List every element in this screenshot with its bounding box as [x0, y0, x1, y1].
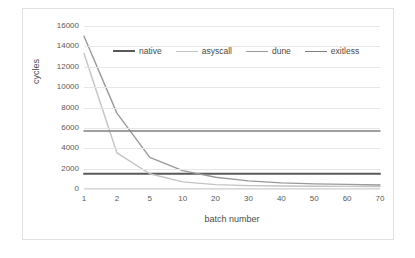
gridline: [84, 128, 380, 129]
gridline: [84, 108, 380, 109]
legend-item-dune[interactable]: dune: [246, 47, 291, 56]
x-axis-tick-label: 5: [148, 195, 152, 203]
x-axis-tick-label: 40: [277, 195, 286, 203]
gridline: [84, 169, 380, 170]
y-axis-tick-label: 14000: [57, 42, 79, 50]
gridline: [84, 189, 380, 190]
x-axis-tick-label: 30: [244, 195, 253, 203]
x-axis-tick-label: 20: [211, 195, 220, 203]
series-line-dune: [84, 36, 380, 185]
legend-label-asyscall: asyscall: [202, 47, 232, 56]
x-axis-tick-label: 2: [115, 195, 119, 203]
series-line-asyscall: [84, 54, 380, 187]
legend-label-native: native: [139, 47, 162, 56]
gridline: [84, 67, 380, 68]
chart-frame: cycles 020004000600080001000012000140001…: [22, 8, 394, 240]
x-axis-tick-label: 70: [376, 195, 385, 203]
legend-label-exitless: exitless: [331, 47, 359, 56]
y-axis-tick-label: 8000: [61, 104, 79, 112]
gridline: [84, 148, 380, 149]
legend-swatch-exitless: [305, 51, 327, 52]
legend-swatch-native: [113, 50, 135, 52]
y-axis-tick-label: 10000: [57, 83, 79, 91]
x-axis-tick-label: 1: [82, 195, 86, 203]
y-axis-tick-label: 12000: [57, 63, 79, 71]
legend-item-exitless[interactable]: exitless: [305, 47, 359, 56]
y-axis-tick-label: 2000: [61, 165, 79, 173]
legend-item-asyscall[interactable]: asyscall: [176, 47, 232, 56]
y-axis-tick-label: 0: [75, 185, 79, 193]
x-axis-tick-label: 50: [310, 195, 319, 203]
gridline: [84, 87, 380, 88]
chart-legend: nativeasyscallduneexitless: [113, 47, 359, 56]
legend-item-native[interactable]: native: [113, 47, 162, 56]
legend-swatch-asyscall: [176, 51, 198, 52]
x-axis-tick-label: 10: [178, 195, 187, 203]
x-axis-line: [84, 188, 380, 189]
gridline: [84, 26, 380, 27]
y-axis-tick-label: 4000: [61, 144, 79, 152]
x-axis-title: batch number: [84, 214, 380, 224]
x-axis-tick-label: 60: [343, 195, 352, 203]
legend-swatch-dune: [246, 51, 268, 52]
y-axis-tick-label: 16000: [57, 22, 79, 30]
y-axis-tick-label: 6000: [61, 124, 79, 132]
y-axis-title: cycles: [31, 59, 41, 84]
legend-label-dune: dune: [272, 47, 291, 56]
